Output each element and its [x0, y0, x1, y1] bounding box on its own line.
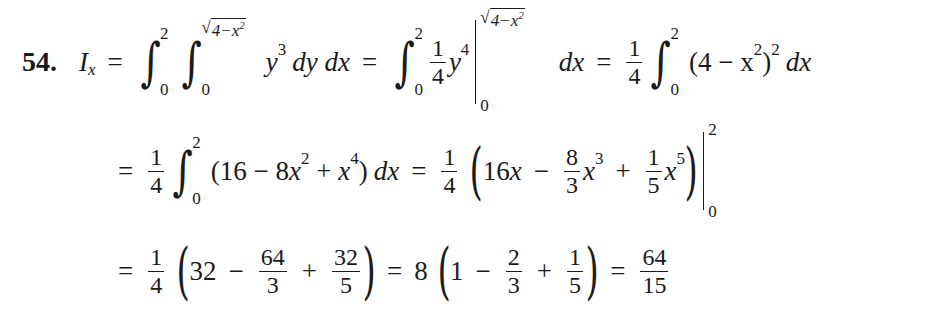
fraction: 14: [148, 244, 164, 298]
integral-inner: ∫ √4−x2 0: [178, 30, 245, 94]
fraction: 23: [506, 244, 522, 298]
integral-sign: ∫: [140, 36, 160, 88]
differentials: dy dx: [292, 47, 350, 78]
fraction: 83: [564, 144, 580, 198]
lower-limit: 0: [201, 80, 245, 100]
equation-line-1: 54. Ix = ∫ 20 ∫ √4−x2 0 y3 dy dx = ∫ 20 …: [22, 22, 811, 102]
equals-sign: =: [610, 256, 625, 287]
equation-line-3: = 14 ( 32 − 643 + 325 ) = 8 ( 1 − 23 + 1…: [118, 232, 671, 310]
lower-limit: 0: [160, 80, 169, 100]
integral-outer: ∫ 20: [137, 30, 169, 94]
integral-sign: ∫: [182, 36, 202, 88]
moment-symbol: I: [79, 47, 88, 78]
left-paren: (: [437, 240, 450, 302]
fraction: 14: [430, 35, 446, 89]
evaluation-bar: 2 0: [703, 132, 717, 210]
fraction: 14: [626, 35, 642, 89]
right-paren: ): [585, 240, 598, 302]
final-answer: 6415: [640, 244, 668, 298]
integral: ∫ 20: [169, 139, 201, 203]
equals-sign: =: [108, 47, 123, 78]
equals-sign: =: [118, 156, 133, 187]
equals-sign: =: [411, 156, 426, 187]
fraction: 15: [646, 144, 662, 198]
fraction: 325: [332, 244, 360, 298]
fraction: 15: [567, 244, 583, 298]
equals-sign: =: [118, 256, 133, 287]
problem-number: 54.: [22, 46, 57, 78]
left-paren: (: [470, 140, 483, 202]
sqrt-sign: √: [201, 18, 210, 38]
right-paren: ): [685, 140, 698, 202]
equals-sign: =: [596, 47, 611, 78]
moment-subscript: x: [88, 60, 96, 80]
fraction: 14: [441, 144, 457, 198]
equals-sign: =: [362, 47, 377, 78]
equals-sign: =: [387, 256, 402, 287]
evaluation-bar: √4−x2 0: [475, 20, 524, 104]
upper-limit: 2: [160, 24, 169, 44]
integral: ∫ 20: [647, 30, 679, 94]
fraction: 14: [148, 144, 164, 198]
upper-limit-sqrt: √4−x2: [201, 18, 245, 41]
integral: ∫ 20: [391, 30, 423, 94]
integrand-var: y: [266, 47, 278, 78]
fraction: 643: [259, 244, 287, 298]
equation-line-2: = 14 ∫ 20 (16 − 8x2 + x4) dx = 14 ( 16x …: [118, 130, 717, 212]
left-paren: (: [177, 240, 190, 302]
right-paren: ): [362, 240, 375, 302]
